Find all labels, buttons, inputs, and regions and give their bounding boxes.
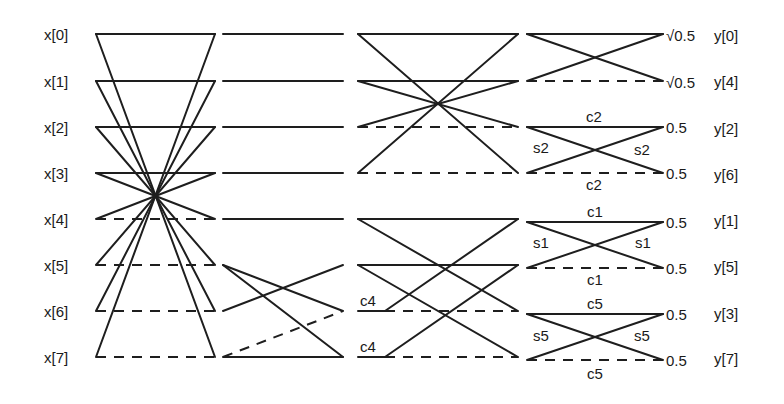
coeff-c5-top: c5 bbox=[587, 295, 603, 312]
coeff-c2-top: c2 bbox=[586, 108, 602, 125]
scale-factor: 0.5 bbox=[666, 119, 687, 136]
stage-1-butterflies bbox=[96, 34, 215, 357]
input-label: x[1] bbox=[44, 73, 68, 90]
scale-factor: 0.5 bbox=[666, 306, 687, 323]
coeff-s1-right: s1 bbox=[635, 234, 651, 251]
input-label: x[2] bbox=[44, 119, 68, 136]
scale-factor: 0.5 bbox=[666, 352, 687, 369]
stage-2 bbox=[223, 34, 343, 357]
coeff-c4: c4 bbox=[360, 338, 376, 355]
scale-factor: √0.5 bbox=[666, 27, 695, 44]
stage-3: c4 c4 bbox=[358, 34, 518, 357]
coeff-c2-bottom: c2 bbox=[586, 176, 602, 193]
output-label: y[5] bbox=[714, 258, 738, 275]
input-labels: x[0] x[1] x[2] x[3] x[4] x[5] x[6] x[7] bbox=[44, 26, 68, 366]
coeff-c5-bottom: c5 bbox=[587, 365, 603, 382]
coeff-c4: c4 bbox=[360, 292, 376, 309]
coeff-s2-right: s2 bbox=[634, 141, 650, 158]
output-label: y[2] bbox=[714, 120, 738, 137]
output-label: y[0] bbox=[714, 27, 738, 44]
input-label: x[6] bbox=[44, 303, 68, 320]
coeff-s1-left: s1 bbox=[533, 234, 549, 251]
coeff-s2-left: s2 bbox=[533, 139, 549, 156]
dct-flow-graph: x[0] x[1] x[2] x[3] x[4] x[5] x[6] x[7] bbox=[0, 0, 784, 404]
scale-factor: 0.5 bbox=[666, 260, 687, 277]
output-label: y[4] bbox=[714, 73, 738, 90]
input-label: x[0] bbox=[44, 26, 68, 43]
scale-factor: √0.5 bbox=[666, 74, 695, 91]
input-label: x[5] bbox=[44, 257, 68, 274]
stage-4: c2 s2 s2 c2 c1 s1 s1 c1 c5 s5 s5 c5 bbox=[527, 34, 663, 382]
output-label: y[3] bbox=[714, 305, 738, 322]
scale-factor: 0.5 bbox=[666, 214, 687, 231]
input-label: x[4] bbox=[44, 211, 68, 228]
coeff-s5-left: s5 bbox=[533, 327, 549, 344]
output-label: y[7] bbox=[714, 350, 738, 367]
coeff-c1-bottom: c1 bbox=[587, 271, 603, 288]
output-labels: y[0] y[4] y[2] y[6] y[1] y[5] y[3] y[7] bbox=[714, 27, 738, 367]
output-label: y[6] bbox=[714, 166, 738, 183]
scale-factor: 0.5 bbox=[666, 165, 687, 182]
coeff-s5-right: s5 bbox=[634, 327, 650, 344]
scale-factors: √0.5 √0.5 0.5 0.5 0.5 0.5 0.5 0.5 bbox=[666, 27, 695, 369]
coeff-c1-top: c1 bbox=[587, 203, 603, 220]
output-label: y[1] bbox=[714, 212, 738, 229]
input-label: x[3] bbox=[44, 165, 68, 182]
input-label: x[7] bbox=[44, 349, 68, 366]
